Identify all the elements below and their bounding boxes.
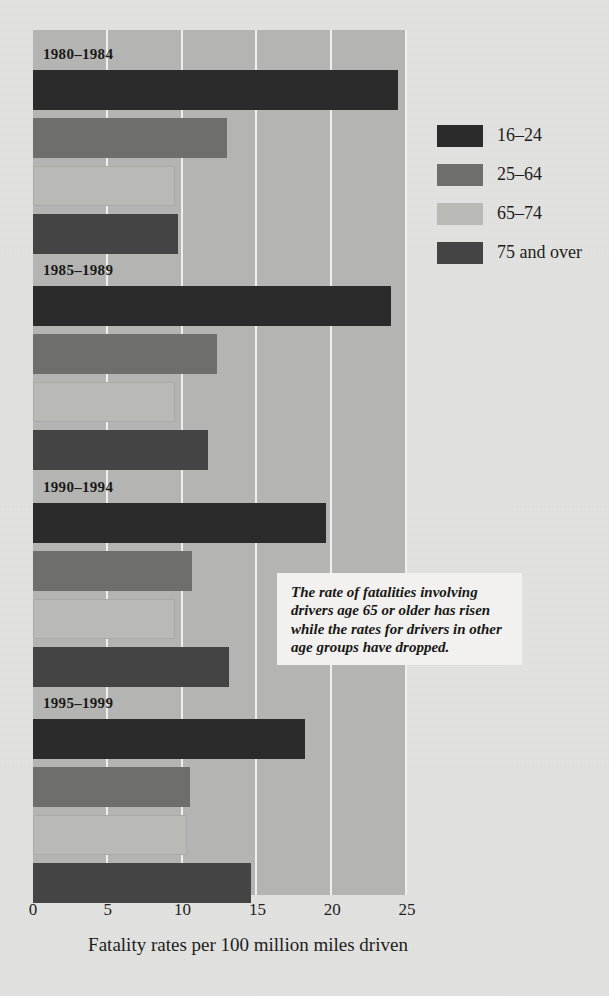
bar <box>33 166 175 206</box>
plot-area: 1980–19841985–19891990–19941995–1999 <box>33 30 407 895</box>
legend-swatch-16-24 <box>437 125 483 147</box>
group-label-1980-1984: 1980–1984 <box>43 46 113 63</box>
x-axis-tick-labels: 0510152025 <box>0 900 609 926</box>
chart-legend: 16–24 25–64 65–74 75 and over <box>437 116 597 272</box>
bar <box>33 214 178 254</box>
legend-swatch-65-74 <box>437 203 483 225</box>
legend-item: 25–64 <box>437 155 597 194</box>
x-axis-title: Fatality rates per 100 million miles dri… <box>33 934 463 956</box>
group-label-1995-1999: 1995–1999 <box>43 695 113 712</box>
x-tick-15: 15 <box>249 900 266 920</box>
group-label-1985-1989: 1985–1989 <box>43 262 113 279</box>
x-tick-0: 0 <box>29 900 38 920</box>
legend-label: 25–64 <box>497 164 542 185</box>
bar <box>33 503 326 543</box>
bar <box>33 719 305 759</box>
gridline-25 <box>405 30 407 895</box>
legend-label: 65–74 <box>497 203 542 224</box>
group-label-1990-1994: 1990–1994 <box>43 479 113 496</box>
legend-item: 16–24 <box>437 116 597 155</box>
legend-swatch-75-and-over <box>437 242 483 264</box>
legend-swatch-25-64 <box>437 164 483 186</box>
bar <box>33 70 398 110</box>
legend-label: 75 and over <box>497 242 582 263</box>
annotation-callout: The rate of fatalities involving drivers… <box>277 573 522 665</box>
annotation-text: The rate of fatalities involving drivers… <box>291 583 510 656</box>
bar <box>33 599 175 639</box>
bar <box>33 334 217 374</box>
x-tick-10: 10 <box>174 900 191 920</box>
legend-item: 75 and over <box>437 233 597 272</box>
bar <box>33 430 208 470</box>
bar <box>33 118 227 158</box>
gridline-15 <box>255 30 257 895</box>
bar <box>33 767 190 807</box>
bar <box>33 551 192 591</box>
x-tick-5: 5 <box>104 900 113 920</box>
bar <box>33 863 251 903</box>
gridline-20 <box>330 30 332 895</box>
bar-chart-figure: 1980–19841985–19891990–19941995–1999 051… <box>0 0 609 996</box>
bar <box>33 815 187 855</box>
x-tick-20: 20 <box>324 900 341 920</box>
x-tick-25: 25 <box>399 900 416 920</box>
bar <box>33 382 175 422</box>
bar <box>33 286 391 326</box>
legend-item: 65–74 <box>437 194 597 233</box>
bar <box>33 647 229 687</box>
legend-label: 16–24 <box>497 125 542 146</box>
